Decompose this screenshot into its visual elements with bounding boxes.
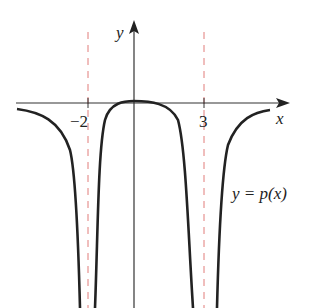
tick-label-3: 3 <box>199 112 208 131</box>
x-axis-label: x <box>275 109 284 128</box>
graph-figure: y x −2 3 y = p(x) <box>0 0 310 308</box>
curve-middle-branch <box>95 101 193 308</box>
y-axis-label: y <box>114 23 124 42</box>
curve-left-branch <box>17 109 80 308</box>
curve-right-branch <box>217 110 270 308</box>
curve-label: y = p(x) <box>230 184 287 203</box>
tick-label-minus-2: −2 <box>70 112 88 131</box>
